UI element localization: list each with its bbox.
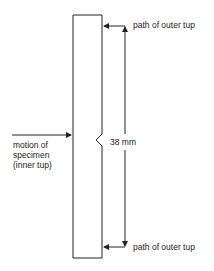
top-path-label: path of outer tup — [133, 20, 195, 30]
bottom-path-label: path of outer tup — [133, 242, 195, 252]
motion-label-3: (inner tup) — [13, 160, 52, 170]
diagram-canvas — [0, 0, 214, 271]
motion-label-2: specimen — [13, 150, 49, 160]
specimen-bar — [73, 15, 102, 258]
motion-label-1: motion of — [13, 140, 48, 150]
dimension-label: 38 mm — [110, 137, 136, 147]
